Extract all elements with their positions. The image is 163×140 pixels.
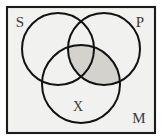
venn-diagram-canvas: S P M X: [0, 0, 163, 140]
venn-diagram-figure: S P M X: [0, 0, 163, 140]
set-label-m: M: [132, 110, 145, 126]
set-label-p: P: [136, 14, 144, 30]
set-label-s: S: [16, 14, 24, 30]
existential-x-marker: X: [73, 99, 83, 114]
